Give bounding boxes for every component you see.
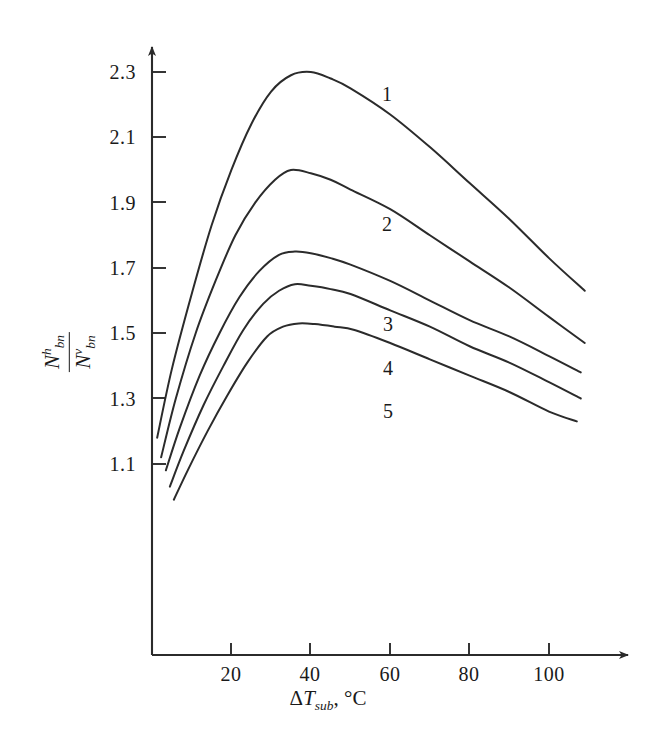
y-label-denominator-subscript: bn (83, 335, 98, 348)
curve-label-1: 1 (377, 83, 397, 106)
y-tick-label: 2.3 (90, 61, 136, 84)
x-label-unit: , °C (333, 686, 366, 710)
curve-label-4: 4 (378, 357, 398, 380)
curve-label-2: 2 (377, 213, 397, 236)
curve-4 (170, 284, 581, 487)
curve-5 (174, 323, 577, 499)
x-tick-label: 80 (446, 663, 492, 686)
y-tick-label: 1.9 (90, 192, 136, 215)
x-label-subscript: sub (315, 698, 334, 713)
curve-label-5: 5 (378, 400, 398, 423)
x-tick-label: 20 (208, 663, 254, 686)
x-tick-label: 40 (287, 663, 333, 686)
y-label-numerator-superscript: h (39, 348, 54, 355)
x-tick-label: 60 (367, 663, 413, 686)
x-label-delta: Δ (290, 686, 304, 710)
y-tick-label: 1.1 (90, 453, 136, 476)
curve-2 (161, 170, 585, 458)
data-curves (157, 72, 585, 500)
y-label-denominator-superscript: v (70, 349, 85, 355)
y-tick-label: 2.1 (90, 126, 136, 149)
x-tick-label: 100 (526, 663, 572, 686)
y-label-numerator-subscript: bn (52, 335, 67, 348)
curve-3 (166, 252, 581, 471)
y-label-numerator-symbol: N (40, 355, 64, 369)
curve-1 (157, 72, 585, 438)
x-axis-label: ΔTsub, °C (228, 686, 428, 714)
figure-container: 2.3 2.1 1.9 1.7 1.5 1.3 1.1 20 40 60 80 … (0, 0, 661, 749)
y-axis-label: Nhbn Nvbn (34, 292, 104, 412)
curve-label-3: 3 (378, 313, 398, 336)
x-label-symbol: T (303, 686, 315, 710)
y-label-denominator-symbol: N (71, 355, 95, 369)
x-axis-ticks (231, 643, 549, 655)
y-tick-label: 1.7 (90, 257, 136, 280)
